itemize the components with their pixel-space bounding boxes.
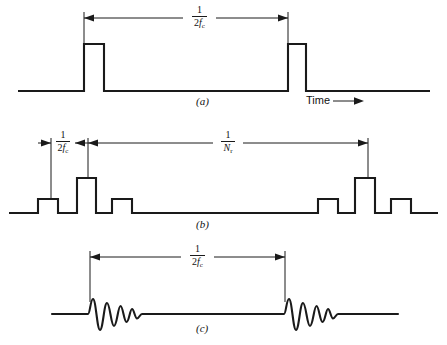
fraction-denominator: 2fc — [190, 257, 205, 268]
panel-b-waveform — [9, 178, 438, 213]
time-arrow-icon — [333, 97, 364, 105]
fraction-numerator: 1 — [56, 130, 71, 141]
fraction-numerator: 1 — [190, 244, 205, 255]
panel-b-short-dimension-label: 1 2fc — [51, 130, 75, 153]
panel-c-waveform — [52, 299, 398, 330]
fraction-denominator: 2fc — [192, 18, 207, 29]
time-axis-label: Time — [306, 95, 330, 106]
panel-a-group — [18, 12, 430, 91]
figure-root: 1 2fc (a) Time 1 2fc 1 Nr (b) 1 2fc (c — [0, 0, 447, 345]
fraction-numerator: 1 — [192, 5, 207, 16]
fraction-denominator: 2fc — [56, 143, 71, 154]
fraction-1-over-2fc-a: 1 2fc — [190, 5, 209, 28]
fraction-1-over-2fc-c: 1 2fc — [188, 244, 207, 267]
panel-label-c: (c) — [196, 323, 208, 334]
panel-a-waveform — [18, 44, 430, 91]
fraction-1-over-2fc-b: 1 2fc — [54, 130, 73, 153]
fraction-denominator: Nr — [221, 143, 234, 154]
fraction-numerator: 1 — [221, 130, 234, 141]
panel-a-dimension-label: 1 2fc — [183, 5, 216, 28]
panel-c-group — [52, 251, 398, 330]
panel-b-long-dimension-label: 1 Nr — [213, 130, 243, 153]
panel-c-dimension-label: 1 2fc — [181, 244, 214, 267]
panel-label-a: (a) — [196, 96, 209, 107]
fraction-1-over-Nr: 1 Nr — [219, 130, 236, 153]
waveform-figure-svg — [0, 0, 447, 345]
panel-label-b: (b) — [196, 219, 209, 230]
